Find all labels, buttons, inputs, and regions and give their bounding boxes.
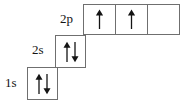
spin-up-arrow-icon [63,41,71,63]
spin-up-arrow-icon [35,73,43,95]
spin-up-arrow-icon [95,9,104,30]
orbital-diagram: 2p 2s [0,0,186,112]
orbital-row-2p [83,4,180,35]
spin-down-arrow-icon [71,41,79,63]
orbital-label-2s: 2s [32,43,44,56]
orbital-label-2p: 2p [60,12,73,25]
orbital-box-2s-1[interactable] [55,35,86,68]
spin-group-2p-1 [95,9,104,30]
spin-group-1s-1 [35,73,51,95]
spin-down-arrow-icon [43,73,51,95]
orbital-box-2p-3[interactable] [147,4,180,35]
orbital-label-1s: 1s [5,76,17,89]
orbital-row-2s [55,35,86,68]
spin-group-2s-1 [63,41,79,63]
spin-group-2p-2 [127,9,136,30]
spin-up-arrow-icon [127,9,136,30]
orbital-row-1s [27,67,58,100]
orbital-box-1s-1[interactable] [27,67,58,100]
orbital-box-2p-1[interactable] [83,4,116,35]
orbital-box-2p-2[interactable] [115,4,148,35]
